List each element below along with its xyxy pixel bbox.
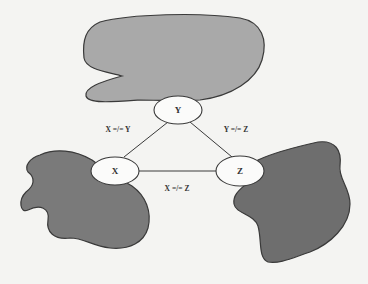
node-y-label: Y (175, 105, 182, 115)
node-z: Z (216, 156, 264, 186)
node-x-label: X (112, 166, 119, 176)
top-region (84, 15, 265, 102)
edge-label-x-y: X =/= Y (106, 125, 132, 134)
edge-x-y (124, 122, 168, 157)
map-coloring-diagram: Y X Z X =/= Y Y =/= Z X =/= Z (0, 0, 368, 284)
edge-label-x-z: X =/= Z (165, 184, 190, 193)
node-y: Y (154, 96, 202, 124)
node-x: X (91, 157, 139, 185)
edge-label-y-z: Y =/= Z (224, 125, 249, 134)
node-z-label: Z (237, 166, 243, 176)
